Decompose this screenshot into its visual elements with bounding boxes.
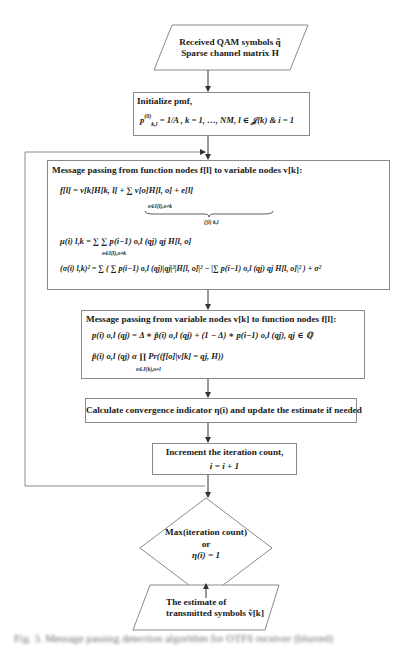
decision-output-arrow bbox=[0, 0, 411, 651]
figure-caption: Fig. 3. Message passing detection algori… bbox=[14, 632, 333, 644]
